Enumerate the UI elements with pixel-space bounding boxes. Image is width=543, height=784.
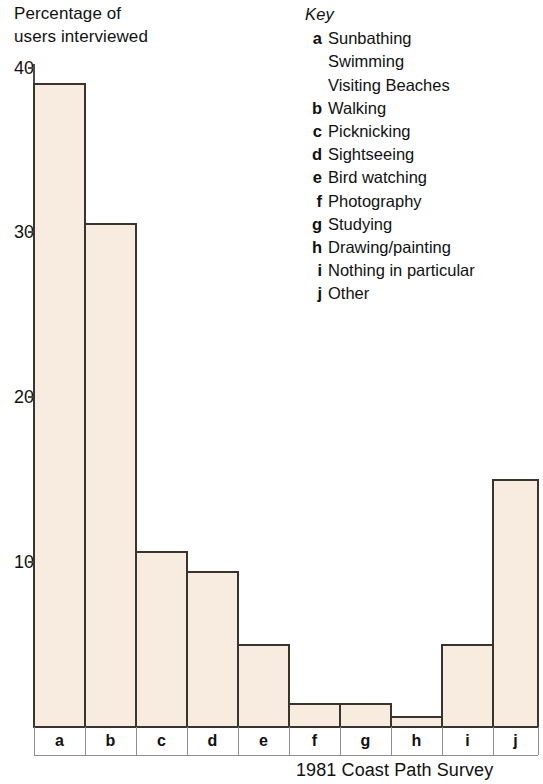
x-label-d: d xyxy=(187,732,238,750)
x-label-a: a xyxy=(34,732,85,750)
x-label-f: f xyxy=(289,732,340,750)
bar-f xyxy=(289,704,340,727)
bar-i xyxy=(442,645,493,727)
x-label-j: j xyxy=(493,732,538,750)
bar-j xyxy=(493,480,538,727)
bar-g xyxy=(340,704,391,727)
bar-chart-plot xyxy=(0,0,543,784)
x-label-g: g xyxy=(340,732,391,750)
bar-a xyxy=(34,84,85,727)
chart-caption: 1981 Coast Path Survey xyxy=(296,760,493,780)
bar-e xyxy=(238,645,289,727)
x-label-e: e xyxy=(238,732,289,750)
x-label-i: i xyxy=(442,732,493,750)
x-label-c: c xyxy=(136,732,187,750)
x-label-h: h xyxy=(391,732,442,750)
x-label-b: b xyxy=(85,732,136,750)
bar-b xyxy=(85,224,136,727)
bar-d xyxy=(187,572,238,727)
bar-h xyxy=(391,717,442,727)
bar-c xyxy=(136,552,187,727)
